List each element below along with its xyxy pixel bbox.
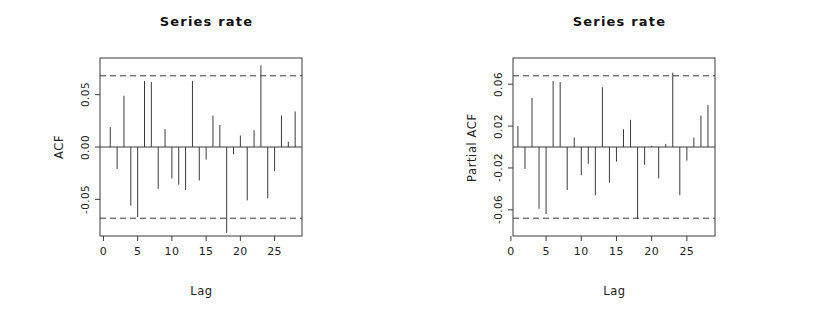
pacf-x-tick-label: 25 <box>667 245 707 258</box>
acf-y-tick-label: -0.05 <box>79 185 91 214</box>
pacf-x-tick-label: 10 <box>561 245 601 258</box>
pacf-x-tick-label: 15 <box>596 245 636 258</box>
acf-y-tick-label: 0.05 <box>79 82 91 107</box>
pacf-x-tick-label: 5 <box>526 245 566 258</box>
pacf-x-axis-label: Lag <box>408 284 821 298</box>
pacf-y-tick-label: 0.02 <box>492 114 504 139</box>
pacf-panel: Series rate Lag 0.060.02-0.02-0.06051015… <box>413 0 826 333</box>
pacf-y-tick-label: -0.02 <box>492 153 504 182</box>
figure-canvas: Series rate Lag 0.050.00-0.050510152025A… <box>0 0 826 333</box>
pacf-x-tick-label: 0 <box>491 245 531 258</box>
acf-y-axis-label: ACF <box>52 135 66 159</box>
pacf-y-axis-label: Partial ACF <box>465 113 479 182</box>
pacf-x-tick-label: 20 <box>632 245 672 258</box>
acf-x-axis-label: Lag <box>0 284 408 298</box>
pacf-y-tick-label: 0.06 <box>492 72 504 97</box>
pacf-y-tick-label: -0.06 <box>492 195 504 224</box>
acf-x-tick-label: 25 <box>255 245 295 258</box>
acf-y-tick-label: 0.00 <box>79 135 91 160</box>
acf-panel: Series rate Lag 0.050.00-0.050510152025A… <box>0 0 413 333</box>
